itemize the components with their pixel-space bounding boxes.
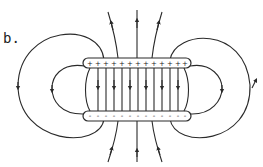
positive-charges: + + + + + + + + + + + + + (87, 60, 188, 68)
svg-text:+: + (159, 60, 165, 68)
svg-text:+: + (87, 60, 93, 68)
svg-text:+: + (175, 60, 181, 68)
svg-text:+: + (151, 60, 157, 68)
svg-text:+: + (182, 60, 188, 68)
top-outgoing-lines (108, 10, 162, 58)
right-fringe-lines (170, 38, 256, 137)
left-fringe-lines (18, 34, 104, 138)
svg-text:+: + (135, 60, 141, 68)
svg-text:+: + (111, 60, 117, 68)
svg-text:+: + (167, 60, 173, 68)
svg-text:+: + (95, 60, 101, 68)
svg-text:+: + (103, 60, 109, 68)
internal-field-lines (86, 68, 189, 111)
svg-text:+: + (143, 60, 149, 68)
bottom-incoming-lines (108, 121, 162, 162)
svg-text:+: + (127, 60, 133, 68)
svg-text:+: + (119, 60, 125, 68)
capacitor-field-diagram: + + + + + + + + + + + + + - - - - - - - … (0, 0, 263, 167)
